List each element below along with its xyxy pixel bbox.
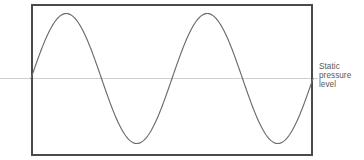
figure-canvas — [0, 0, 364, 160]
annotation-line-2: pressure — [319, 71, 364, 80]
annotation-line-3: level — [319, 80, 364, 89]
static-pressure-level-label: Static pressure level — [319, 62, 364, 90]
pressure-wave-figure: Static pressure level — [0, 0, 364, 160]
annotation-line-1: Static — [319, 62, 364, 71]
